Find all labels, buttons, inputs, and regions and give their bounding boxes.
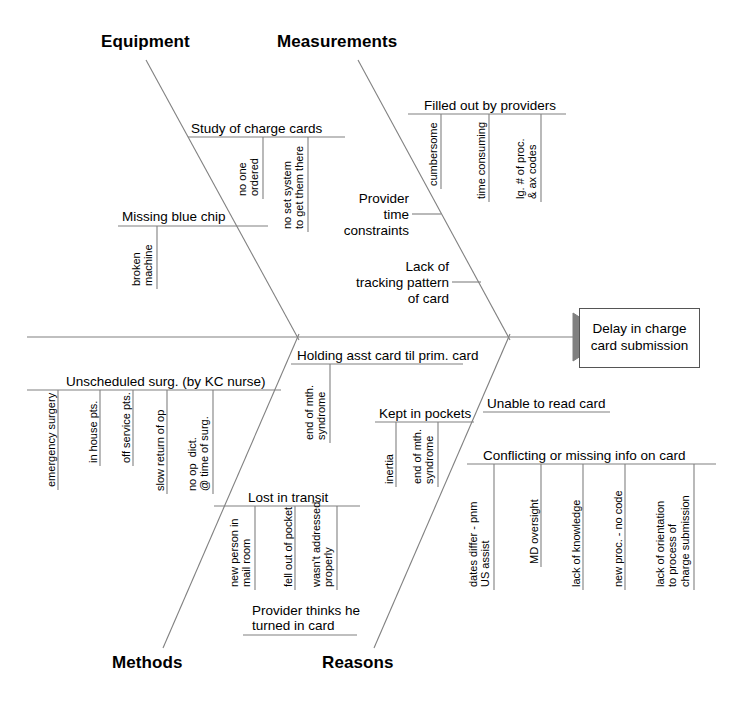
cause-label-provider-time-constraints: Provider time constraints — [291, 191, 409, 240]
category-label-equipment: Equipment — [101, 32, 190, 51]
cause-label-missing-blue-chip: Missing blue chip — [122, 209, 226, 224]
cause-label-kept-in-pockets: Kept in pockets — [379, 406, 471, 421]
subcause-label-fell-out-of-pocket: fell out of pocket — [282, 507, 294, 587]
effect-label: Delay in charge card submission — [580, 321, 699, 355]
subcause-label-no-op-dict: no op dict. @ time of surg. — [186, 416, 211, 491]
fishbone-diagram: Equipment Measurements Methods Reasons D… — [0, 0, 730, 713]
branch-reasons — [374, 334, 510, 648]
subcause-label-no-one-ordered: no one ordered — [236, 158, 261, 196]
subcause-label-new-person-mail-room: new person in mail room — [228, 519, 253, 588]
subcause-label-lack-of-knowledge: lack of knowledge — [570, 500, 582, 587]
subcause-label-lack-of-orientation: lack of orientation to process of charge… — [654, 495, 691, 587]
subcause-label-end-of-mth-syndrome-pockets: end of mth. syndrome — [411, 429, 436, 484]
subcause-label-broken-machine: broken machine — [130, 244, 155, 286]
branch-equipment — [146, 60, 299, 340]
subcause-label-off-service-pts: off service pts. — [120, 392, 132, 463]
effect-box: Delay in charge card submission — [579, 308, 700, 368]
cause-label-unscheduled-surg: Unscheduled surg. (by KC nurse) — [66, 374, 266, 389]
cause-label-conflicting-info: Conflicting or missing info on card — [483, 448, 686, 463]
subcause-label-wasnt-addressed-properly: wasn't addressed properly — [310, 502, 335, 587]
cause-label-holding-asst-card: Holding asst card til prim. card — [297, 348, 479, 363]
subcause-label-inertia: inertia — [383, 454, 395, 484]
subcause-label-time-consuming: time consuming — [475, 122, 487, 199]
subcause-label-md-oversight: MD oversight — [528, 499, 540, 564]
category-label-measurements: Measurements — [277, 32, 397, 51]
cause-label-unable-to-read-card: Unable to read card — [487, 396, 606, 411]
subcause-label-emergency-surgery: emergency surgery — [45, 393, 57, 487]
cause-label-study-of-charge-cards: Study of charge cards — [191, 121, 322, 136]
subcause-label-end-of-mth-syndrome-holding: end of mth. syndrome — [303, 385, 328, 440]
subcause-label-in-house-pts: in house pts. — [87, 401, 99, 463]
cause-label-filled-out-by-providers: Filled out by providers — [424, 98, 556, 113]
subcause-label-dates-differ: dates differ - pnm US assist — [467, 502, 492, 587]
category-label-methods: Methods — [112, 653, 183, 672]
subcause-label-slow-return-of-op: slow return of op — [154, 410, 166, 491]
subcause-label-new-proc-no-code: new proc. - no code — [612, 490, 624, 587]
cause-label-lack-of-tracking-pattern: Lack of tracking pattern of card — [311, 259, 449, 308]
cause-label-provider-thinks-turned-in-card: Provider thinks he turned in card — [252, 603, 360, 633]
category-label-reasons: Reasons — [322, 653, 394, 672]
subcause-label-cumbersome: cumbersome — [427, 122, 439, 186]
subcause-label-lg-num-proc-ax-codes: lg. # of proc. & ax codes — [514, 138, 539, 199]
